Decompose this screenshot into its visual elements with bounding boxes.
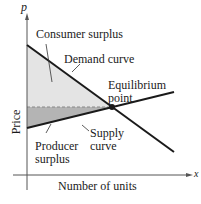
equilibrium-label-line1: Equilibrium — [108, 79, 166, 91]
x-axis-label: Number of units — [58, 180, 137, 192]
x-axis-symbol: x — [194, 168, 198, 180]
equilibrium-label-line2: point — [108, 92, 133, 104]
supply-curve-pointer — [82, 125, 89, 131]
supply-demand-diagram: p x Consumer surplus Demand curve Equili… — [0, 0, 201, 204]
x-axis-arrow-icon — [186, 173, 193, 177]
y-axis-arrow-icon — [25, 13, 29, 20]
demand-curve-label: Demand curve — [64, 53, 134, 65]
producer-surplus-pointer — [46, 124, 51, 133]
y-axis-label: Price — [10, 102, 22, 142]
supply-curve-label-line2: curve — [90, 140, 117, 152]
y-axis-symbol: p — [21, 1, 27, 13]
producer-surplus-label-line2: surplus — [35, 153, 70, 165]
producer-surplus-label-line1: Producer — [35, 140, 78, 152]
supply-curve-label-line1: Supply — [90, 127, 124, 139]
consumer-surplus-label: Consumer surplus — [36, 28, 123, 40]
